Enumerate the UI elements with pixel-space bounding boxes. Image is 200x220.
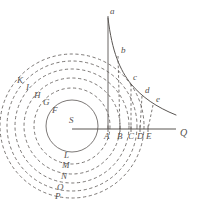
curve-point-label-d: d	[145, 85, 150, 95]
orbit-label-H: H	[33, 90, 41, 100]
center-label-S: S	[69, 115, 74, 125]
chord-line-3	[148, 105, 153, 129]
orbit-label-G: G	[43, 97, 50, 107]
orbit-label-I: I	[25, 82, 30, 92]
curve-point-label-c: c	[133, 72, 137, 82]
axis-point-label-B: B	[117, 131, 123, 141]
diagram-canvas: QSABCDEabcdeKIHGFLMNOP	[0, 0, 200, 220]
orbit-label-N: N	[60, 171, 68, 181]
curve-point-label-b: b	[121, 45, 126, 55]
curve-point-label-a: a	[110, 6, 115, 16]
orbit-label-M: M	[61, 160, 70, 170]
curve-point-label-e: e	[156, 94, 160, 104]
orbit-label-F: F	[51, 105, 58, 115]
axis-point-label-A: A	[103, 131, 110, 141]
axis-point-label-E: E	[145, 131, 152, 141]
orbit-label-P: P	[54, 191, 61, 201]
orbit-label-L: L	[63, 150, 69, 160]
axis-point-label-C: C	[128, 131, 135, 141]
orbit-circle-c4	[15, 69, 129, 183]
chord-line-2	[140, 96, 142, 129]
orbital-decay-diagram: QSABCDEabcdeKIHGFLMNOP	[0, 0, 200, 220]
axis-end-label-Q: Q	[180, 127, 188, 138]
axis-point-label-D: D	[136, 131, 144, 141]
orbit-circle-c5	[7, 61, 137, 191]
orbit-label-K: K	[16, 75, 24, 85]
